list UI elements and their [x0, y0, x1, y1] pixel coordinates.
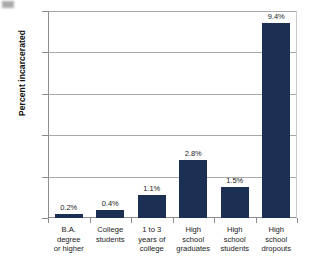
bar-slot: 9.4%: [256, 11, 298, 218]
bar[interactable]: [262, 23, 290, 218]
x-axis-category-line: school: [256, 235, 298, 245]
bar-value-label: 2.8%: [185, 149, 202, 158]
x-tick-mark: [214, 218, 215, 223]
x-axis-category-line: years of: [131, 235, 173, 245]
x-tick-mark: [256, 218, 257, 223]
x-axis-category-line: college: [131, 244, 173, 254]
bar[interactable]: [96, 210, 124, 218]
bar-slot: 1.1%: [131, 11, 173, 218]
bar-chart: Percent incarcerated 0246810 0.2%0.4%1.1…: [0, 0, 309, 269]
x-axis-category-label: Highschoolstudents: [214, 225, 256, 254]
x-tick-mark: [131, 218, 132, 223]
x-axis-category-line: school: [173, 235, 215, 245]
bar[interactable]: [55, 214, 83, 218]
x-axis-category-line: 1 to 3: [131, 225, 173, 235]
bar-value-label: 1.5%: [226, 176, 243, 185]
bar-value-label: 0.2%: [60, 203, 77, 212]
bar-slot: 2.8%: [173, 11, 215, 218]
x-axis-category-line: B.A.: [48, 225, 90, 235]
x-tick-mark: [90, 218, 91, 223]
bar[interactable]: [221, 187, 249, 218]
x-axis-category-label: Collegestudents: [90, 225, 132, 244]
bar-slot: 0.4%: [90, 11, 132, 218]
x-axis-category-line: High: [214, 225, 256, 235]
x-axis-category-line: dropouts: [256, 244, 298, 254]
bar-value-label: 1.1%: [143, 184, 160, 193]
x-axis-category-label: Highschooldropouts: [256, 225, 298, 254]
y-axis-title: Percent incarcerated: [17, 0, 27, 157]
x-axis-category-line: students: [90, 235, 132, 245]
x-axis-category-line: degree: [48, 235, 90, 245]
x-axis-category-label: 1 to 3years ofcollege: [131, 225, 173, 254]
x-axis-category-line: or higher: [48, 244, 90, 254]
x-axis-category-line: graduates: [173, 244, 215, 254]
x-axis-category-line: High: [256, 225, 298, 235]
bar-value-label: 0.4%: [102, 199, 119, 208]
x-tick-mark: [48, 218, 49, 223]
bar[interactable]: [138, 195, 166, 218]
bar-slot: 1.5%: [214, 11, 256, 218]
x-axis-category-line: College: [90, 225, 132, 235]
x-tick-mark: [173, 218, 174, 223]
x-axis-category-line: High: [173, 225, 215, 235]
x-axis-category-line: school: [214, 235, 256, 245]
bars-layer: 0.2%0.4%1.1%2.8%1.5%9.4%: [48, 11, 297, 218]
bar-slot: 0.2%: [48, 11, 90, 218]
bar[interactable]: [179, 160, 207, 218]
x-axis-category-line: students: [214, 244, 256, 254]
x-axis-category-label: Highschoolgraduates: [173, 225, 215, 254]
x-axis-category-label: B.A.degreeor higher: [48, 225, 90, 254]
scan-artifact: [2, 1, 14, 8]
x-axis-labels: B.A.degreeor higherCollegestudents1 to 3…: [48, 225, 297, 267]
bar-value-label: 9.4%: [268, 12, 285, 21]
x-tick-mark: [297, 218, 298, 223]
